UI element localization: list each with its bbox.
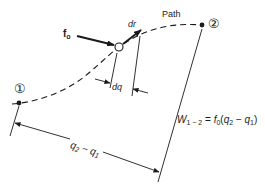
work-formula: W1 − 2 = f0(q2 − q1) bbox=[177, 115, 257, 126]
path-label: Path bbox=[162, 10, 181, 19]
distance-arrow-right bbox=[103, 152, 159, 172]
dq-extension-right bbox=[132, 36, 140, 96]
point-1-dot bbox=[17, 101, 22, 106]
dq-arrow-right bbox=[133, 89, 148, 93]
dq-arrow-left bbox=[95, 79, 110, 83]
extension-line-1 bbox=[10, 106, 19, 136]
extension-line-2 bbox=[158, 29, 202, 182]
point-2-label: ② bbox=[208, 17, 220, 30]
displacement-label: dr bbox=[128, 20, 136, 29]
force-arrow bbox=[77, 36, 114, 45]
force-label: fo bbox=[63, 29, 71, 40]
path-curve bbox=[12, 24, 202, 104]
distance-arrow-left bbox=[15, 123, 70, 139]
particle-circle bbox=[115, 43, 123, 51]
displacement-arrow bbox=[123, 30, 141, 44]
point-2-dot bbox=[200, 23, 205, 28]
dq-label: dq bbox=[112, 83, 122, 92]
point-1-label: ① bbox=[14, 82, 26, 95]
force-subscript: o bbox=[66, 33, 70, 40]
